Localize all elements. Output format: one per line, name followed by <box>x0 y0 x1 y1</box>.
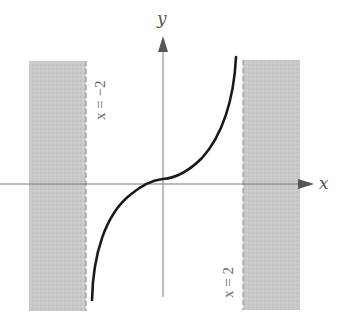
shaded-region-right <box>243 60 300 310</box>
asymptote-label-left-text: x = −2 <box>92 81 108 120</box>
y-axis-label: y <box>156 8 167 28</box>
function-curve <box>92 57 236 300</box>
y-axis-arrow-icon <box>158 36 168 52</box>
asymptote-label-right-text: x = 2 <box>220 267 236 298</box>
shaded-region-left <box>29 61 86 311</box>
function-graph: y x x = −2 x = 2 <box>0 0 345 327</box>
graph-canvas: y x x = −2 x = 2 <box>0 0 345 327</box>
x-axis-arrow-icon <box>298 179 314 189</box>
x-axis-label: x <box>319 173 329 193</box>
